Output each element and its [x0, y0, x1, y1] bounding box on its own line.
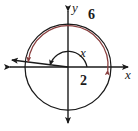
y-axis-label: y [72, 1, 78, 14]
radius-label: 2 [80, 74, 87, 88]
terminal-side-ray [12, 60, 68, 67]
circle-arc-diagram: y x x 6 2 [0, 0, 138, 131]
central-angle-label: x [80, 46, 86, 59]
diagram-canvas [0, 0, 138, 131]
x-axis-label: x [125, 68, 131, 81]
arc-length-label: 6 [88, 8, 95, 22]
